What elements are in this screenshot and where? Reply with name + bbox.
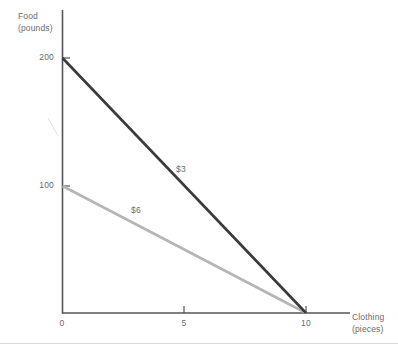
scan-artifact	[48, 118, 58, 136]
budget-line-6	[63, 186, 307, 313]
y-axis-title-line1: Food	[18, 11, 53, 23]
x-axis-title: Clothing (pieces)	[352, 312, 384, 335]
x-tick-label-5: 5	[172, 318, 196, 328]
x-axis-title-line2: (pieces)	[352, 324, 384, 336]
series-label-dollar3: $3	[176, 164, 186, 174]
y-tick-label-200: 200	[20, 52, 54, 62]
x-tick-label-0: 0	[50, 318, 74, 328]
x-tick-label-10: 10	[294, 318, 318, 328]
series-label-dollar6: $6	[131, 205, 141, 215]
chart-plot-area	[0, 0, 398, 358]
budget-line-3	[63, 58, 307, 313]
chart-canvas: Food (pounds) Clothing (pieces) 200 100 …	[0, 0, 398, 358]
y-axis-title: Food (pounds)	[18, 11, 53, 34]
y-axis-title-line2: (pounds)	[18, 23, 53, 35]
bottom-divider	[0, 343, 398, 344]
x-axis-title-line1: Clothing	[352, 312, 384, 324]
y-tick-label-100: 100	[20, 180, 54, 190]
